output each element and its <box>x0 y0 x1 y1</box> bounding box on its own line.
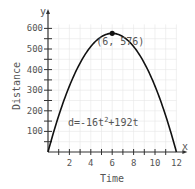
x-axis-title: Time <box>100 173 124 184</box>
y-tick-label: 100 <box>27 126 43 136</box>
y-tick-label: 200 <box>27 106 43 116</box>
parabola-chart: 24681012100200300400500600 (6, 576) d=-1… <box>0 0 195 189</box>
x-tick-label: 2 <box>67 158 72 168</box>
y-axis-title: Distance <box>11 62 22 110</box>
x-tick-label: 12 <box>171 158 182 168</box>
axes <box>46 9 187 154</box>
y-tick-label: 600 <box>27 23 43 33</box>
equation-label: d=-16t2+192t <box>68 116 138 128</box>
vertex-point <box>110 31 115 36</box>
x-axis-letter: x <box>182 141 188 152</box>
x-tick-label: 10 <box>150 158 161 168</box>
y-tick-label: 500 <box>27 44 43 54</box>
y-axis-letter: y <box>40 6 46 17</box>
vertex-label: (6, 576) <box>96 36 144 47</box>
x-tick-label: 6 <box>109 158 114 168</box>
y-tick-label: 300 <box>27 85 43 95</box>
x-tick-label: 8 <box>131 158 136 168</box>
y-tick-label: 400 <box>27 65 43 75</box>
x-tick-label: 4 <box>88 158 93 168</box>
